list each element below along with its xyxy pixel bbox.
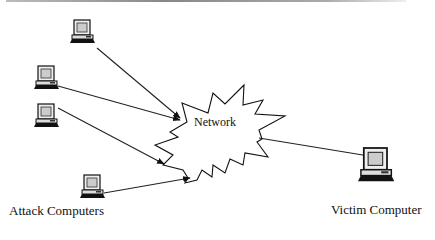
computer-icon <box>34 104 59 127</box>
computer-icon <box>70 20 95 43</box>
victim-computer-icon <box>358 148 394 181</box>
computer-icon <box>34 66 59 89</box>
edge-attacker-3 <box>58 108 164 164</box>
network-label: Network <box>194 115 236 130</box>
victim-computer-label: Victim Computer <box>331 202 422 218</box>
edge-attacker-1 <box>97 48 180 118</box>
edge-attacker-4 <box>104 178 190 193</box>
edge-victim <box>259 138 375 157</box>
attack-computers-label: Attack Computers <box>9 203 104 219</box>
computer-icon <box>80 175 105 198</box>
network-starburst <box>155 85 285 183</box>
